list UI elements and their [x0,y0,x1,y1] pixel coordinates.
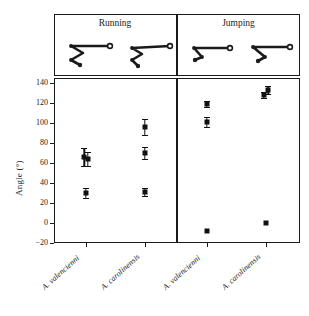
error-bar-cap [83,198,89,199]
data-point-marker [205,102,210,107]
error-bar-cap [261,98,267,99]
data-point-marker [261,93,266,98]
error-bar-cap [142,147,148,148]
error-bar-cap [85,166,91,167]
x-axis-tick-label: A. carolinensis [220,252,263,292]
limb-diagram-running-valencienni [63,38,117,70]
data-point-marker [143,151,148,156]
y-axis-tick-label: 40 [22,179,48,187]
error-bar-cap [265,94,271,95]
figure-root: Angle (°) 140120100806040200−20 Running … [0,0,309,316]
x-axis-tick-label: A. carolinensis [99,252,142,292]
x-axis-tick-mark [145,243,146,247]
main-plot-divider [176,78,178,243]
panel-title-running: Running [54,18,176,28]
y-axis-tick-mark [50,243,54,244]
panel-title-jumping: Jumping [177,18,300,28]
data-point-marker [143,190,148,195]
x-axis-tick-mark [266,243,267,247]
data-point-marker [85,157,90,162]
error-bar-cap [142,196,148,197]
limb-diagram-jumping-carolinensis [240,38,296,70]
x-axis-tick-label: A. valencienni [161,253,202,291]
limb-diagram-running-carolinensis [121,38,175,70]
error-bar-cap [83,188,89,189]
y-axis-tick-label: 120 [22,99,48,107]
error-bar-cap [142,119,148,120]
y-axis-tick-label: 80 [22,139,48,147]
error-bar-cap [204,117,210,118]
y-axis-tick-label: −20 [22,239,48,247]
y-axis-tick-label: 60 [22,159,48,167]
x-axis-tick-mark [86,243,87,247]
limb-diagram-jumping-valencienni [182,38,236,70]
x-axis-tick-mark [207,243,208,247]
y-axis-tick-label: 0 [22,219,48,227]
y-axis-tick-label: 140 [22,79,48,87]
error-bar-cap [81,148,87,149]
data-point-marker [143,125,148,130]
error-bar-cap [142,159,148,160]
error-bar-cap [142,135,148,136]
data-point-marker [205,120,210,125]
data-point-marker [264,221,269,226]
error-bar-cap [204,127,210,128]
error-bar-cap [204,107,210,108]
data-point-marker [84,191,89,196]
y-axis-tick-label: 100 [22,119,48,127]
data-point-marker [205,229,210,234]
x-axis-tick-label: A. valencienni [40,253,81,291]
y-axis-tick-label: 20 [22,199,48,207]
error-bar-cap [85,152,91,153]
data-point-marker [266,88,271,93]
